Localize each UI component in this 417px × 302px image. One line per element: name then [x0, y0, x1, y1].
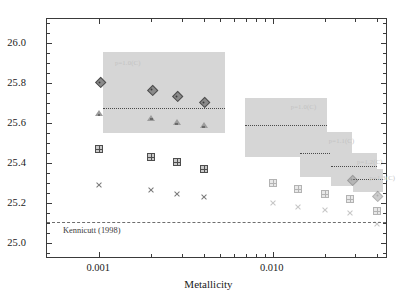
axis-tick — [383, 213, 386, 214]
axis-tick — [265, 254, 266, 257]
axis-tick — [47, 253, 50, 254]
axis-tick — [381, 83, 386, 84]
axis-tick — [151, 19, 152, 22]
data-point-x — [295, 203, 302, 210]
axis-tick — [381, 243, 386, 244]
axis-tick — [381, 43, 386, 44]
axis-tick — [383, 223, 386, 224]
axis-tick — [47, 113, 50, 114]
model-band-label: p=1.0(C) — [115, 59, 141, 66]
axis-tick — [383, 53, 386, 54]
data-point-x — [148, 187, 155, 194]
data-point-square-cross — [95, 145, 103, 153]
axis-tick — [47, 143, 50, 144]
axis-tick — [220, 19, 221, 22]
data-point-x — [96, 182, 103, 189]
data-point-square-cross — [269, 179, 277, 187]
axis-tick — [256, 19, 257, 22]
axis-tick — [234, 254, 235, 257]
data-point-diamond — [147, 85, 156, 94]
axis-tick — [383, 133, 386, 134]
kennicutt-reference-line — [47, 222, 386, 223]
x-tick-label: 0.001 — [86, 262, 110, 273]
data-point-x — [200, 194, 207, 201]
axis-tick — [383, 193, 386, 194]
model-band-label: p=1.1(C) — [329, 137, 355, 144]
axis-tick — [204, 254, 205, 257]
axis-tick — [47, 153, 50, 154]
plot-area: p=1.0(C)p=1.0(C)p=1.1(C)p=1.2(C)p=1.3(C)… — [46, 18, 387, 258]
axis-tick — [99, 19, 100, 24]
axis-tick — [381, 163, 386, 164]
data-point-square-cross — [321, 190, 329, 198]
axis-tick — [383, 33, 386, 34]
data-point-square-cross — [200, 165, 208, 173]
axis-tick — [47, 93, 50, 94]
axis-tick — [47, 23, 50, 24]
axis-tick — [47, 183, 50, 184]
axis-tick — [47, 73, 50, 74]
y-tick-label: 25.0 — [7, 237, 26, 248]
axis-tick — [220, 254, 221, 257]
axis-tick — [377, 19, 378, 22]
data-point-x — [269, 200, 276, 207]
data-point-square-cross — [294, 185, 302, 193]
axis-tick — [383, 93, 386, 94]
axis-tick — [47, 243, 52, 244]
model-band-label: p=1.3(C) — [370, 174, 396, 181]
axis-tick — [47, 173, 50, 174]
data-point-diamond — [199, 98, 208, 107]
y-tick-label: 25.8 — [7, 77, 26, 88]
axis-tick — [383, 23, 386, 24]
data-point-diamond — [373, 191, 382, 200]
axis-tick — [47, 33, 50, 34]
axis-tick — [383, 73, 386, 74]
kennicutt-reference-label: Kennicutt (1998) — [63, 226, 120, 235]
axis-tick — [325, 19, 326, 22]
y-tick-label: 25.4 — [7, 157, 26, 168]
axis-tick — [204, 19, 205, 22]
data-point-square-cross — [173, 158, 181, 166]
y-tick-label: 25.2 — [7, 197, 26, 208]
figure: log (ξion,0 / erg−1 Hz) Metallicity p=1.… — [0, 0, 417, 302]
axis-tick — [383, 183, 386, 184]
axis-tick — [383, 233, 386, 234]
axis-tick — [182, 254, 183, 257]
data-point-triangle — [173, 118, 181, 126]
data-point-square-cross — [346, 195, 354, 203]
x-tick-label: 0.010 — [260, 262, 284, 273]
axis-tick — [383, 113, 386, 114]
axis-tick — [246, 254, 247, 257]
axis-tick — [273, 252, 274, 257]
data-point-diamond — [172, 92, 181, 101]
data-point-square-cross — [373, 207, 381, 215]
data-point-square-cross — [147, 153, 155, 161]
axis-tick — [355, 19, 356, 22]
axis-tick — [377, 254, 378, 257]
axis-tick — [151, 254, 152, 257]
axis-tick — [383, 103, 386, 104]
axis-tick — [246, 19, 247, 22]
axis-tick — [381, 123, 386, 124]
axis-tick — [355, 254, 356, 257]
data-point-x — [347, 210, 354, 217]
axis-tick — [273, 19, 274, 24]
axis-tick — [383, 143, 386, 144]
model-band-label: p=1.2(C) — [357, 158, 383, 165]
axis-tick — [99, 252, 100, 257]
axis-tick — [182, 19, 183, 22]
axis-tick — [383, 253, 386, 254]
axis-tick — [383, 173, 386, 174]
axis-tick — [47, 213, 50, 214]
axis-tick — [47, 193, 50, 194]
x-axis-label: Metallicity — [0, 278, 417, 290]
axis-tick — [47, 43, 52, 44]
axis-tick — [381, 203, 386, 204]
y-tick-label: 26.0 — [7, 37, 26, 48]
axis-tick — [47, 223, 50, 224]
data-point-diamond — [347, 175, 356, 184]
axis-tick — [47, 123, 52, 124]
data-point-diamond — [95, 78, 104, 87]
axis-tick — [47, 53, 50, 54]
axis-tick — [383, 153, 386, 154]
